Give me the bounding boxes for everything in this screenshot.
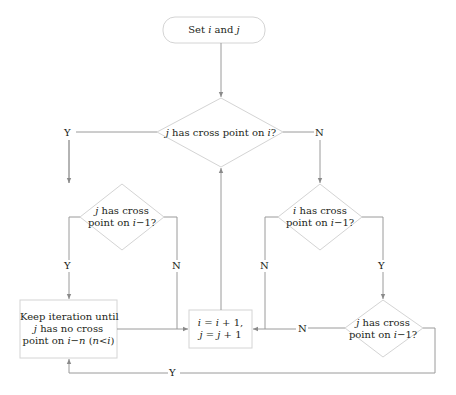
flowchart-canvas: Set i and j j has cross point on i? j ha… [0,0,456,395]
right-decision: i has cross point on i−1? [280,205,360,229]
edge-label-main-no: N [314,128,325,138]
edge-label-main-yes: Y [63,128,72,138]
bottom-decision: j has cross point on i−1? [343,317,423,341]
edge-label-left-yes: Y [63,261,72,271]
edge-label-right-yes: Y [377,261,386,271]
main-decision: j has cross point on i? [161,127,281,139]
edge-label-right-no: N [259,261,270,271]
edge-label-bottom-yes: Y [168,368,177,378]
edge-label-bottom-no: N [297,324,308,334]
edge-label-left-no: N [171,261,182,271]
left-decision: j has cross point on i−1? [82,205,162,229]
start-node: Set i and j [163,24,265,36]
increment-node: i = i + 1, j = j + 1 [189,317,252,341]
keep-iteration-node: Keep iteration until j has no cross poin… [20,311,117,347]
